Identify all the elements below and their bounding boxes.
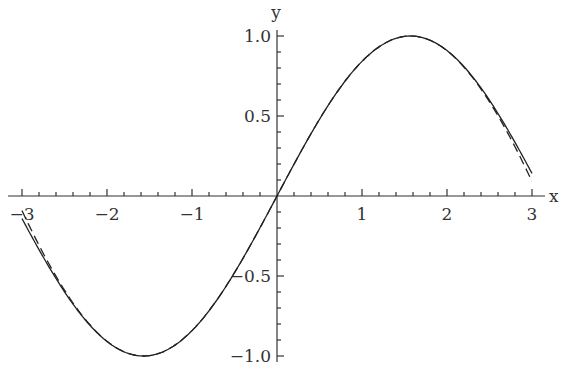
x-tick-label: −1 xyxy=(179,204,204,224)
y-tick-label: 0.5 xyxy=(244,106,271,126)
plot-area: −3−2−11231.00.5−0.5−1.0xy xyxy=(0,0,571,368)
y-tick-label: −0.5 xyxy=(230,266,271,286)
y-tick-label: −1.0 xyxy=(230,346,271,366)
x-tick-label: −2 xyxy=(94,204,119,224)
x-tick-label: 2 xyxy=(442,204,453,224)
tick-labels: −3−2−11231.00.5−0.5−1.0xy xyxy=(9,2,559,366)
y-axis-label: y xyxy=(270,2,281,22)
y-tick-label: 1.0 xyxy=(244,26,271,46)
x-tick-label: 3 xyxy=(527,204,538,224)
x-axis-label: x xyxy=(549,186,559,206)
x-tick-label: −3 xyxy=(9,204,34,224)
x-tick-label: 1 xyxy=(357,204,368,224)
